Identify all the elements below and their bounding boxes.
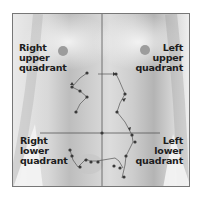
arrow-icons xyxy=(70,72,131,131)
label-left-lower-quadrant: Left lower quadrant xyxy=(135,136,183,166)
label-line: quadrant xyxy=(135,63,183,73)
sequence-path xyxy=(70,73,133,178)
quadrant-overlay xyxy=(0,0,200,197)
label-right-upper-quadrant: Right upper quadrant xyxy=(19,43,67,73)
label-line: quadrant xyxy=(20,156,68,166)
label-right-lower-quadrant: Right lower quadrant xyxy=(20,136,68,166)
label-line: quadrant xyxy=(135,156,183,166)
label-left-upper-quadrant: Left upper quadrant xyxy=(135,43,183,73)
label-line: quadrant xyxy=(19,63,67,73)
